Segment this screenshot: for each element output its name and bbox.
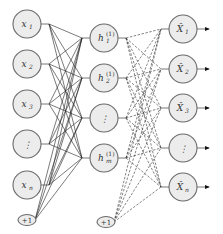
node-label: X̂: [176, 102, 184, 113]
output-node: X̂3: [169, 94, 197, 122]
input-node: xn: [13, 171, 41, 199]
node-label: x: [21, 19, 26, 29]
input-node: x1: [13, 10, 41, 38]
hidden-node: ⋮: [90, 104, 118, 132]
node-label: x: [21, 59, 26, 69]
node-subscript: 3: [185, 107, 189, 114]
node-label: X̂: [176, 181, 184, 192]
output-node: X̂1: [169, 15, 197, 43]
output-node: X̂2: [169, 55, 197, 83]
edge-hidden-output: [126, 118, 161, 187]
input-node: x2: [13, 50, 41, 78]
node-subscript: 3: [29, 103, 33, 110]
edge-hidden-output: [126, 158, 161, 187]
neuron-circle: [13, 10, 41, 38]
node-label: h: [98, 73, 104, 83]
edge-bias-output: [114, 148, 161, 222]
edge-bias-hidden: [35, 158, 82, 220]
edge-bias-output: [114, 187, 161, 222]
input-node: x3: [13, 90, 41, 118]
ellipsis-label: ⋮: [179, 144, 188, 154]
node-label: x: [21, 99, 26, 109]
node-subscript: 2: [184, 68, 189, 75]
neuron-circle: [13, 90, 41, 118]
output-node: X̂n: [169, 173, 197, 201]
neuron-circle: [90, 24, 118, 52]
edge-bias-hidden: [35, 78, 82, 220]
node-label: X̂: [176, 63, 184, 74]
output-node: ⋮: [169, 134, 197, 162]
hidden-node: hm(1): [90, 144, 118, 172]
hidden-node: h1(1): [90, 24, 118, 52]
node-subscript: 1: [29, 23, 33, 30]
node-superscript: (1): [106, 150, 115, 157]
ellipsis-label: ⋮: [100, 114, 109, 124]
node-subscript: m: [106, 157, 112, 164]
node-subscript: 2: [105, 77, 110, 84]
node-subscript: 1: [185, 28, 189, 35]
node-label: x: [21, 180, 26, 190]
input-node: ⋮: [13, 130, 41, 158]
ellipsis-label: ⋮: [23, 140, 32, 150]
node-subscript: 2: [28, 63, 33, 70]
node-label: h: [98, 33, 104, 43]
node-superscript: (1): [106, 30, 115, 37]
neuron-circle: [90, 144, 118, 172]
neuron-circle: [13, 171, 41, 199]
bias-label: +1: [101, 219, 111, 227]
edge-input-hidden: [49, 24, 82, 38]
hidden-bias-node: +1: [97, 217, 115, 228]
node-subscript: n: [29, 184, 33, 191]
neuron-circle: [90, 64, 118, 92]
node-label: h: [98, 153, 104, 163]
node-superscript: (1): [106, 70, 115, 77]
nodes: x1x2x3⋮xnh1(1)h2(1)⋮hm(1)X̂1X̂2X̂3⋮X̂n+1…: [13, 10, 197, 228]
edge-hidden-output: [126, 29, 161, 38]
input-bias-node: +1: [18, 215, 36, 226]
node-label: X̂: [176, 23, 184, 34]
hidden-node: h2(1): [90, 64, 118, 92]
edge-bias-hidden: [35, 118, 82, 220]
edge-hidden-output: [126, 38, 161, 148]
node-subscript: 1: [106, 37, 110, 44]
edge-bias-output: [114, 69, 161, 222]
node-subscript: n: [185, 186, 189, 193]
edge-hidden-output: [126, 38, 161, 187]
neuron-circle: [13, 50, 41, 78]
autoencoder-diagram: x1x2x3⋮xnh1(1)h2(1)⋮hm(1)X̂1X̂2X̂3⋮X̂n+1…: [0, 0, 223, 234]
bias-label: +1: [22, 217, 32, 225]
edge-bias-output: [114, 108, 161, 222]
